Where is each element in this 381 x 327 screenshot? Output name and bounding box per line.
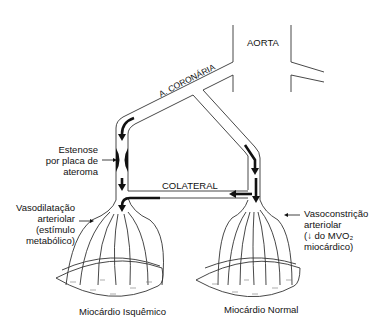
vasodilation-label-line: arteriolar bbox=[16, 213, 75, 224]
normal-arteriole-tree bbox=[218, 200, 292, 285]
aorta-label: AORTA bbox=[247, 37, 279, 48]
normal-myocardium-caption: Miocárdio Normal bbox=[224, 304, 298, 315]
vasodilation-label-line: Vasodilatação bbox=[16, 202, 75, 213]
vasoconstriction-label-line: Vasoconstrição bbox=[304, 208, 368, 219]
vasoconstriction-label: Vasoconstrição arteriolar (↓ do MVO₂ mio… bbox=[304, 208, 368, 252]
aorta-vessel bbox=[233, 25, 324, 92]
stenosis-label-line: por placa de bbox=[46, 155, 98, 166]
normal-myocardium-shape bbox=[196, 261, 300, 296]
collateral-label: COLATERAL bbox=[162, 180, 218, 191]
coronary-steal-diagram: AORTA A. CORONÁRIA COLATERAL Estenose po… bbox=[0, 0, 381, 327]
stenosis-label: Estenose por placa de ateroma bbox=[46, 144, 98, 177]
vasoconstriction-label-line: miocárdico) bbox=[304, 241, 368, 252]
stenosis-plaque bbox=[116, 148, 128, 172]
stenosis-label-line: ateroma bbox=[46, 166, 98, 177]
vasoconstriction-label-line: arteriolar bbox=[304, 219, 368, 230]
myocardium-texture bbox=[70, 280, 292, 294]
ischemic-myocardium-caption: Miocárdio Isquêmico bbox=[79, 306, 166, 317]
vasodilation-label-line: (estímulo bbox=[16, 224, 75, 235]
ischemic-myocardium-curve bbox=[62, 258, 160, 270]
ischemic-arteriole-tree bbox=[66, 198, 164, 285]
vasodilation-label-line: metabólico) bbox=[16, 235, 75, 246]
stenosis-label-line: Estenose bbox=[46, 144, 98, 155]
vasoconstriction-label-line: (↓ do MVO₂ bbox=[304, 230, 368, 241]
vasodilation-label: Vasodilatação arteriolar (estímulo metab… bbox=[16, 202, 75, 246]
